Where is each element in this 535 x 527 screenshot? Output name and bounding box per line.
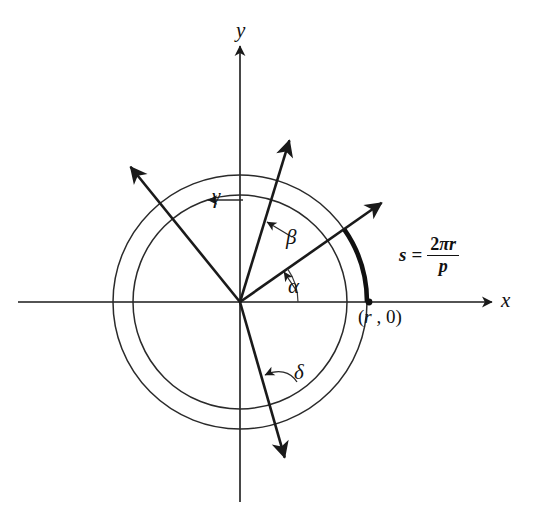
point-r-zero-label: (r , 0) [358,307,402,326]
ray-group [131,140,382,457]
formula-lhs: s [399,244,406,266]
alpha-ray [240,203,382,302]
formula-numerator: 2πr [427,235,459,255]
formula-equals: = [411,244,422,266]
delta-label: δ [294,362,304,383]
point-variable: r [364,306,371,327]
arc-length-formula: s = 2πr p [399,235,459,276]
figure-root: y x γ β α δ (r , 0) s = 2πr p [0,0,535,527]
highlighted-arc-s [344,229,367,302]
formula-denominator: p [427,255,459,276]
formula-coefficient: 2 [430,234,439,254]
point-rest: , 0) [372,306,402,327]
beta-ray [240,140,289,302]
formula-fraction: 2πr p [427,235,459,276]
leader-group [208,200,297,382]
formula-radius-var: r [449,234,456,254]
x-axis-label: x [501,290,510,311]
y-axis-label: y [236,20,245,41]
alpha-label: α [288,276,299,297]
point-r-zero-dot [366,299,373,306]
formula-pi: π [439,234,449,254]
delta-ray [240,302,285,458]
delta-leader [265,372,297,382]
gamma-label: γ [212,186,220,207]
beta-label: β [286,227,296,248]
